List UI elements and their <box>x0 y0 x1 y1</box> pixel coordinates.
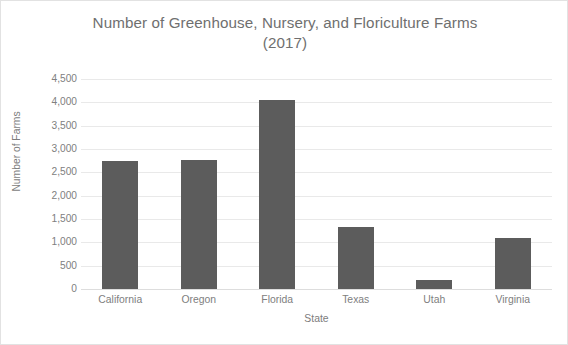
y-axis-tick-label: 1,500 <box>33 214 77 224</box>
y-axis-title: Number of Farms <box>11 107 22 197</box>
y-axis-tick-label: 4,000 <box>33 97 77 107</box>
gridline <box>81 289 552 290</box>
bar[interactable] <box>495 238 531 289</box>
y-axis-tick-label: 1,000 <box>33 237 77 247</box>
bar[interactable] <box>416 280 452 289</box>
x-axis-tick-label: Texas <box>342 293 369 306</box>
x-axis-tick-label: California <box>98 293 142 306</box>
y-axis-tick-label: 3,000 <box>33 144 77 154</box>
bar[interactable] <box>338 227 374 289</box>
bar-slot <box>317 79 396 289</box>
bar-slot <box>474 79 553 289</box>
x-axis-tick-label: Florida <box>261 293 293 306</box>
chart-title-line-2: (2017) <box>1 33 568 53</box>
bar-slot <box>81 79 160 289</box>
y-axis-tick-label: 2,000 <box>33 191 77 201</box>
y-axis-tick-labels: 05001,0001,5002,0002,5003,0003,5004,0004… <box>29 79 77 289</box>
x-axis-tick-label: Utah <box>423 293 445 306</box>
chart-title: Number of Greenhouse, Nursery, and Flori… <box>1 13 568 53</box>
y-axis-tick-label: 2,500 <box>33 167 77 177</box>
chart-title-line-1: Number of Greenhouse, Nursery, and Flori… <box>1 13 568 33</box>
y-axis-tick-label: 4,500 <box>33 74 77 84</box>
x-axis-tick-label: Oregon <box>181 293 216 306</box>
x-axis-title: State <box>81 313 552 324</box>
bar-slot <box>238 79 317 289</box>
bar[interactable] <box>181 160 217 289</box>
y-axis-tick-label: 0 <box>33 284 77 294</box>
bar[interactable] <box>259 100 295 289</box>
x-axis-tick-label: Virginia <box>496 293 530 306</box>
bar-slot <box>395 79 474 289</box>
x-axis-tick-labels: CaliforniaOregonFloridaTexasUtahVirginia <box>81 293 552 309</box>
bar[interactable] <box>102 161 138 289</box>
y-axis-tick-label: 3,500 <box>33 121 77 131</box>
y-axis-tick-label: 500 <box>33 261 77 271</box>
bars-layer <box>81 79 552 289</box>
chart-container: Number of Greenhouse, Nursery, and Flori… <box>0 0 568 345</box>
bar-slot <box>160 79 239 289</box>
